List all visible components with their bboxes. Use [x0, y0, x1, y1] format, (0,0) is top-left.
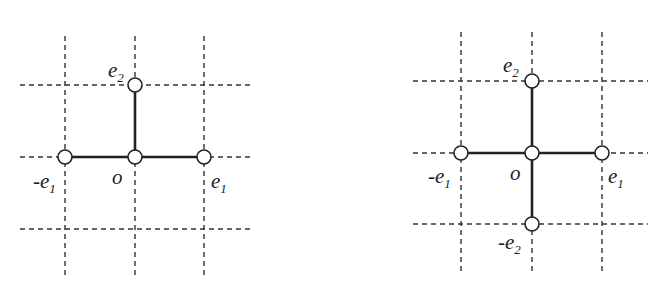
node-label: -e1: [33, 169, 56, 196]
vertex-circle: [525, 217, 539, 231]
node-e2: e2: [108, 58, 142, 92]
vertex-circle: [595, 146, 609, 160]
vertex-circle: [128, 78, 142, 92]
node-label: e2: [503, 53, 519, 80]
node-label: -e1: [428, 164, 451, 191]
edges: [65, 85, 204, 157]
vertex-circle: [525, 146, 539, 160]
node-label: e1: [211, 169, 227, 196]
node-e1: e1: [595, 146, 624, 191]
node-label: o: [510, 161, 521, 185]
node-label: o: [112, 165, 123, 189]
node-label: e1: [608, 164, 624, 191]
vertex-circle: [197, 150, 211, 164]
node-label: e2: [108, 58, 124, 85]
diagram-left: e2-e1oe1: [20, 36, 252, 276]
vertex-circle: [128, 150, 142, 164]
node-minus-e2: -e2: [498, 217, 539, 257]
node-e2: e2: [503, 53, 539, 88]
diagram-right: e2-e1oe1-e2: [413, 32, 648, 274]
vertex-circle: [454, 146, 468, 160]
vertex-circle: [58, 150, 72, 164]
node-label: -e2: [498, 230, 521, 257]
diagram-canvas: e2-e1oe1e2-e1oe1-e2: [0, 0, 665, 291]
vertex-circle: [525, 74, 539, 88]
